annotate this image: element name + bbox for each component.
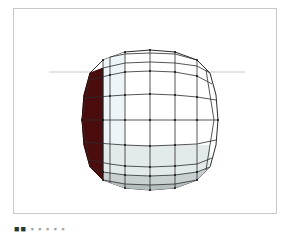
wireframe-sphere [81,49,219,191]
caption-prefix: ■■ [14,224,27,232]
sphere-viewport [0,0,290,232]
figure-caption: ■■ ▪ ▪ ▪ ▪ ▪ [14,224,65,232]
selected-face-strip [82,68,103,180]
caption-text: ▪ ▪ ▪ ▪ ▪ [30,224,65,232]
